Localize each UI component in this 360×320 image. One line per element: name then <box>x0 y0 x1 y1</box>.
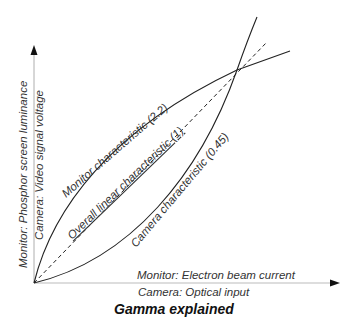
x-axis-label-camera: Camera: Optical input <box>138 286 250 298</box>
x-axis-arrow-icon <box>330 280 340 287</box>
y-axis-arrow-icon <box>31 45 38 55</box>
diagram-title: Gamma explained <box>114 301 234 317</box>
y-axis-label-monitor: Monitor: Phosphor screen luminance <box>17 81 29 268</box>
camera-curve <box>34 17 257 283</box>
gamma-diagram: Monitor: Phosphor screen luminance Camer… <box>0 0 360 320</box>
camera-curve-label: Camera characteristic (0.45) <box>128 130 231 249</box>
monitor-curve <box>34 51 290 283</box>
x-axis-label-monitor: Monitor: Electron beam current <box>137 269 296 281</box>
y-axis-label-camera: Camera: Video signal voltage <box>33 90 45 240</box>
